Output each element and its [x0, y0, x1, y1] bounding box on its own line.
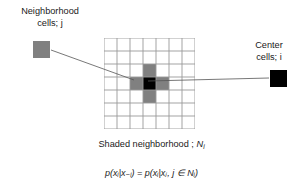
neighborhood-cells-label: Neighborhood cells; j: [6, 6, 94, 29]
neighborhood-cell-swatch: [33, 41, 50, 58]
center-cells-label-line2: cells; i: [238, 52, 300, 64]
neighbor-cell-2: [156, 77, 169, 90]
center-cell: [143, 77, 156, 90]
neighborhood-cells-label-line1: Neighborhood: [6, 6, 94, 18]
figure-canvas: Neighborhood cells; j Center cells; i Sh…: [0, 0, 303, 188]
center-cells-label-line1: Center: [238, 40, 300, 52]
neighbor-cell-1: [130, 77, 143, 90]
lattice-grid-svg: [104, 38, 195, 129]
center-cells-label: Center cells; i: [238, 40, 300, 63]
neighbor-cell-0: [143, 64, 156, 77]
lattice-grid: [104, 38, 195, 129]
formula-text: p(xᵢ|x₋ᵢ) = p(xᵢ|xⱼ, j ∈ Nᵢ): [105, 168, 198, 178]
caption-prefix: Shaded neighborhood ;: [98, 139, 196, 149]
caption-shaded-neighborhood: Shaded neighborhood ; Ni: [0, 139, 303, 150]
neighbor-cell-3: [143, 90, 156, 103]
center-cell-swatch: [270, 70, 287, 87]
neighborhood-cells-label-line2: cells; j: [6, 18, 94, 30]
conditional-probability-formula: p(xᵢ|x₋ᵢ) = p(xᵢ|xⱼ, j ∈ Nᵢ): [0, 168, 303, 178]
caption-subscript: i: [203, 143, 204, 150]
